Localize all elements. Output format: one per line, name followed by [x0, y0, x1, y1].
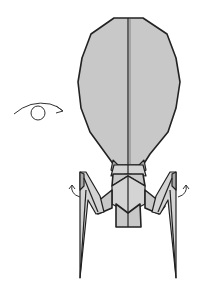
left-leg-rotate-arrow: [69, 185, 80, 197]
turn-over-symbol: [14, 103, 63, 120]
turn-over-arrow-icon: [14, 103, 63, 114]
left-leg: [80, 172, 112, 278]
eye-circle-icon: [31, 106, 45, 120]
origami-diagram: [0, 0, 202, 285]
phage-tail-body: [112, 174, 145, 227]
right-leg-rotate-arrow: [178, 185, 189, 197]
right-leg: [145, 172, 176, 278]
phage-head: [78, 18, 180, 165]
